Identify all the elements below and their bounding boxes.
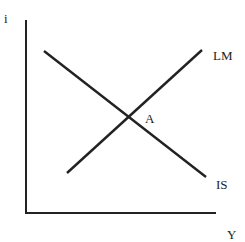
lm-curve-label: LM — [213, 49, 233, 62]
is-curve-label: IS — [216, 178, 228, 191]
y-axis-label: i — [4, 12, 8, 25]
lm-curve — [67, 50, 202, 173]
x-axis-label: Y — [227, 228, 236, 241]
equilibrium-point-label: A — [145, 112, 154, 125]
is-lm-diagram: i Y LM IS A — [0, 0, 245, 242]
diagram-canvas — [0, 0, 245, 242]
